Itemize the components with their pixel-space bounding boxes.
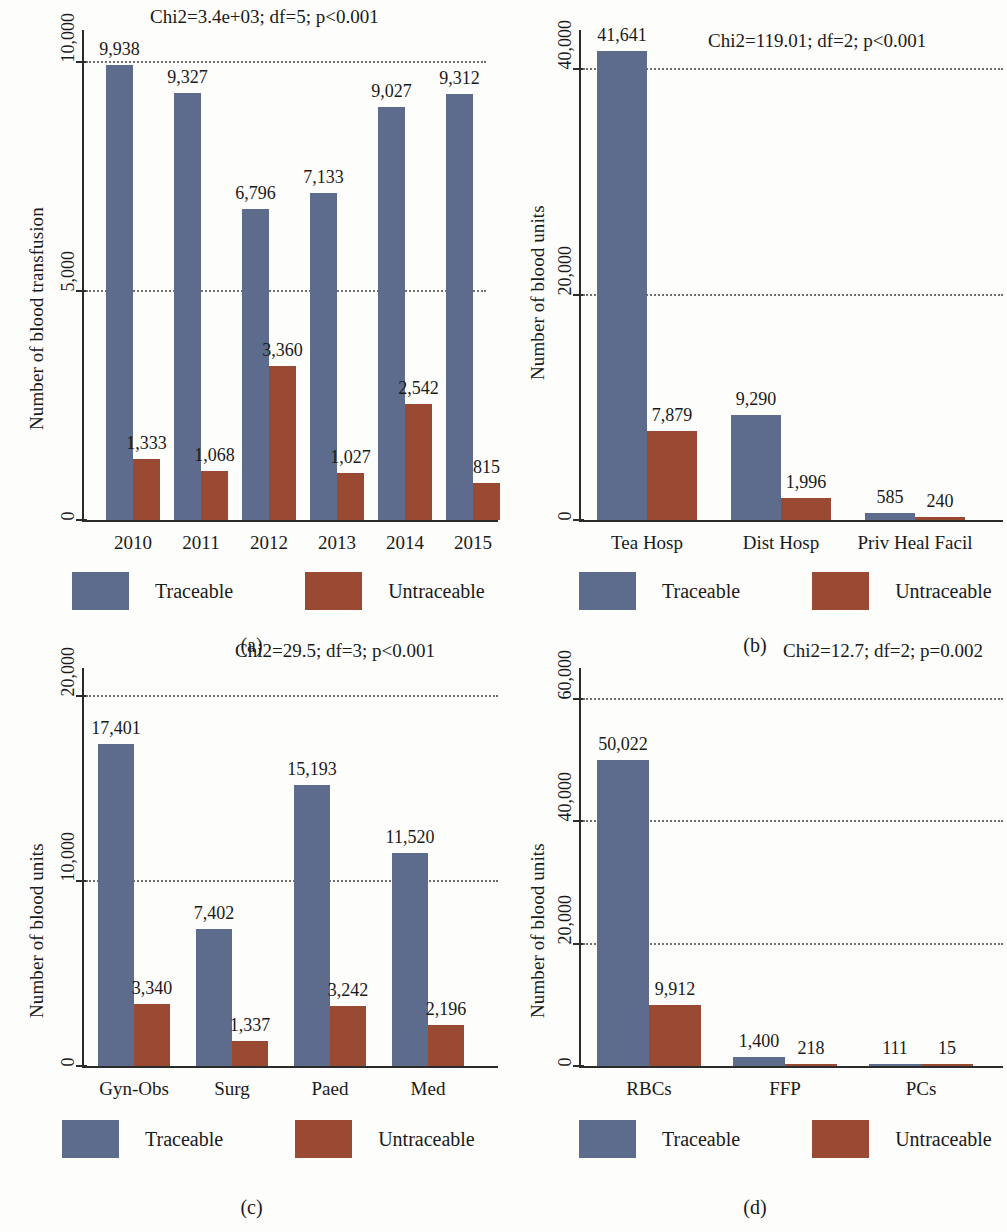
bar-untraceable-med — [428, 1025, 464, 1066]
bar-untraceable-2013 — [337, 473, 364, 520]
panel-a-plot-area: 05,00010,0009,9381,33320109,3271,0682011… — [82, 30, 494, 520]
panel-a-stat-annotation: Chi2=3.4e+03; df=5; p<0.001 — [150, 6, 379, 28]
bar-untraceable-2010 — [133, 459, 160, 520]
bar-untraceable-2014 — [405, 404, 432, 520]
panel-c-plot-area: 010,00020,00017,4013,340Gyn-Obs7,4021,33… — [82, 668, 494, 1066]
gridline — [86, 695, 498, 697]
bar-value-label: 2,196 — [398, 999, 494, 1020]
bar-untraceable-dist-hosp — [781, 498, 831, 520]
legend-label-traceable: Traceable — [145, 1128, 223, 1151]
bar-value-label: 9,938 — [76, 39, 163, 60]
y-axis-line — [579, 668, 581, 1068]
bar-value-label: 41,641 — [567, 25, 677, 46]
legend-swatch-untraceable-icon — [812, 1120, 869, 1158]
bar-untraceable-2011 — [201, 471, 228, 520]
legend-label-traceable: Traceable — [662, 580, 740, 603]
bar-value-label: 15 — [891, 1038, 1003, 1059]
legend-item-untraceable: Untraceable — [812, 1120, 992, 1158]
legend-swatch-traceable-icon — [579, 1120, 636, 1158]
bar-untraceable-ffp — [785, 1064, 837, 1066]
x-axis-line — [82, 1066, 498, 1068]
bar-traceable-tea-hosp — [597, 51, 647, 520]
legend-label-traceable: Traceable — [155, 580, 233, 603]
legend-swatch-traceable-icon — [72, 572, 129, 610]
bar-value-label: 3,242 — [300, 980, 396, 1001]
gridline — [583, 698, 1003, 700]
bar-value-label: 15,193 — [264, 759, 360, 780]
panel-c-legend: Traceable Untraceable — [62, 1120, 475, 1158]
bar-traceable-pcs — [869, 1064, 921, 1066]
bar-untraceable-pcs — [921, 1064, 973, 1066]
bar-value-label: 7,402 — [166, 903, 262, 924]
bar-value-label: 7,133 — [280, 167, 367, 188]
bar-untraceable-tea-hosp — [647, 431, 697, 520]
bar-traceable-2013 — [310, 193, 337, 520]
bar-value-label: 3,340 — [104, 978, 200, 999]
legend-item-traceable: Traceable — [62, 1120, 223, 1158]
bar-untraceable-2015 — [473, 483, 500, 520]
bar-value-label: 9,312 — [416, 68, 503, 89]
panel-b-y-axis-label: Number of blood units — [527, 205, 549, 380]
panel-d-y-axis-label: Number of blood units — [527, 843, 549, 1018]
panel-a-y-axis-label: Number of blood transfusion — [26, 207, 48, 430]
bar-untraceable-rbcs — [649, 1005, 701, 1066]
bar-traceable-paed — [294, 785, 330, 1066]
panel-c-y-axis-label: Number of blood units — [26, 843, 48, 1018]
legend-item-traceable: Traceable — [579, 1120, 740, 1158]
legend-label-untraceable: Untraceable — [895, 1128, 992, 1151]
legend-label-untraceable: Untraceable — [895, 580, 992, 603]
legend-label-traceable: Traceable — [662, 1128, 740, 1151]
gridline — [86, 880, 498, 882]
legend-swatch-untraceable-icon — [305, 572, 362, 610]
legend-swatch-traceable-icon — [579, 572, 636, 610]
y-axis-line — [82, 30, 84, 522]
bar-untraceable-2012 — [269, 366, 296, 520]
panel-d-plot-area: 020,00040,00060,00050,0229,912RBCs1,4002… — [579, 668, 999, 1066]
bar-value-label: 50,022 — [567, 734, 679, 755]
x-axis-line — [579, 520, 1003, 522]
legend-swatch-traceable-icon — [62, 1120, 119, 1158]
bar-traceable-surg — [196, 929, 232, 1066]
gridline — [86, 290, 486, 292]
panel-a: Chi2=3.4e+03; df=5; p<0.001 Number of bl… — [0, 0, 503, 616]
panel-d: Chi2=12.7; df=2; p=0.002 Number of blood… — [503, 616, 1007, 1232]
panel-c-caption: (c) — [0, 1196, 503, 1219]
legend-item-untraceable: Untraceable — [295, 1120, 475, 1158]
bar-traceable-2014 — [378, 107, 405, 520]
legend-label-untraceable: Untraceable — [378, 1128, 475, 1151]
figure-sheet: Chi2=3.4e+03; df=5; p<0.001 Number of bl… — [0, 0, 1007, 1232]
bar-untraceable-paed — [330, 1006, 366, 1066]
x-axis-line — [579, 1066, 1003, 1068]
legend-item-traceable: Traceable — [579, 572, 740, 610]
panel-c-stat-annotation: Chi2=29.5; df=3; p<0.001 — [235, 640, 435, 662]
legend-label-untraceable: Untraceable — [388, 580, 485, 603]
legend-item-untraceable: Untraceable — [812, 572, 992, 610]
x-tick-label: Med — [347, 1078, 509, 1100]
panel-c: Chi2=29.5; df=3; p<0.001 Number of blood… — [0, 616, 503, 1232]
legend-swatch-untraceable-icon — [812, 572, 869, 610]
bar-value-label: 11,520 — [362, 827, 458, 848]
bar-traceable-priv-heal-facil — [865, 513, 915, 520]
bar-value-label: 17,401 — [68, 718, 164, 739]
x-tick-label: PCs — [824, 1078, 1007, 1100]
legend-item-untraceable: Untraceable — [305, 572, 485, 610]
x-axis-line — [82, 520, 498, 522]
bar-traceable-med — [392, 853, 428, 1066]
bar-traceable-rbcs — [597, 760, 649, 1066]
y-axis-line — [579, 30, 581, 522]
bar-value-label: 9,912 — [619, 979, 731, 1000]
x-tick-label: Priv Heal Facil — [820, 532, 1007, 554]
panel-b: Chi2=119.01; df=2; p<0.001 Number of blo… — [503, 0, 1007, 616]
bar-untraceable-surg — [232, 1041, 268, 1066]
bar-traceable-dist-hosp — [731, 415, 781, 520]
panel-d-stat-annotation: Chi2=12.7; df=2; p=0.002 — [783, 640, 983, 662]
legend-swatch-untraceable-icon — [295, 1120, 352, 1158]
bar-traceable-gyn-obs — [98, 744, 134, 1066]
panel-a-legend: Traceable Untraceable — [72, 572, 485, 610]
bar-value-label: 1,337 — [202, 1015, 298, 1036]
bar-value-label: 9,290 — [701, 389, 811, 410]
panel-d-caption: (d) — [503, 1196, 1007, 1219]
bar-traceable-2012 — [242, 209, 269, 520]
legend-item-traceable: Traceable — [72, 572, 233, 610]
bar-value-label: 9,327 — [144, 67, 231, 88]
